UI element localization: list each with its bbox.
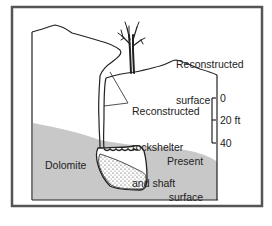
rockshelter-cross-section-diagram: Reconstructed surface Reconstructed rock… [0,0,272,226]
rockshelter-label-line1: Reconstructed [132,105,200,117]
present-surface-label: Present surface [167,131,203,226]
present-surface-label-line1: Present [167,155,203,167]
present-surface-label-line2: surface [167,191,203,203]
scale-tick-0: 0 [220,92,226,104]
scale-tick-20: 20 ft [220,114,240,126]
scale-tick-40: 40 [220,137,232,149]
reconstructed-surface-label-line1: Reconstructed [176,58,244,70]
dolomite-label: Dolomite [45,159,86,171]
